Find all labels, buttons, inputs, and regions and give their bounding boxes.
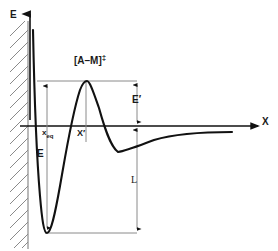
activation-energy-label: E′ — [132, 95, 141, 105]
energy-axis-label: E — [10, 10, 17, 20]
x-transition-label: X′ — [77, 129, 85, 138]
double-dagger-icon: ‡ — [102, 53, 106, 62]
surface-wall-hatching — [10, 21, 28, 248]
distance-axis-label: X — [262, 117, 269, 127]
prime-mark-icon: ′ — [139, 94, 141, 105]
activation-energy-text: E — [132, 94, 139, 105]
potential-energy-diagram: E X [A–M]‡ E′ xeq X′ E L — [0, 0, 278, 251]
potential-energy-curve — [33, 30, 232, 233]
shallow-well-depth-label: L — [131, 175, 137, 185]
transition-state-label: [A–M]‡ — [74, 54, 106, 66]
x-eq-label: xeq — [42, 129, 53, 139]
well-depth-label: E — [37, 149, 44, 159]
x-prime-mark-icon: ′ — [83, 128, 85, 138]
x-eq-subscript: eq — [46, 133, 53, 139]
diagram-canvas — [0, 0, 278, 251]
transition-state-text: [A–M] — [74, 55, 102, 66]
